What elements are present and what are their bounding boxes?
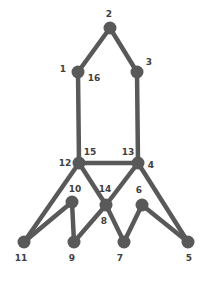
graph-node-label-14: 14 [99, 184, 112, 194]
graph-node-5[interactable] [182, 236, 195, 249]
graph-node-14[interactable] [100, 199, 113, 212]
graph-node-6[interactable] [136, 199, 149, 212]
graph-node-2[interactable] [104, 22, 117, 35]
graph-node-7[interactable] [118, 236, 131, 249]
graph-node-label-6: 6 [136, 185, 142, 195]
graph-edge-n6-n5 [142, 205, 188, 242]
graph-node-label-7: 7 [117, 253, 123, 263]
graph-edge-label-13: 13 [122, 147, 135, 157]
graph-diagram-canvas: 1234567910111214 1615138 [0, 0, 204, 283]
graph-node-1[interactable] [72, 66, 85, 79]
graph-node-label-10: 10 [69, 184, 82, 194]
graph-edge-label-15: 15 [84, 147, 97, 157]
graph-node-9[interactable] [68, 236, 81, 249]
graph-node-3[interactable] [131, 66, 144, 79]
graph-svg: 1234567910111214 1615138 [0, 0, 204, 283]
graph-node-label-4: 4 [148, 160, 154, 170]
graph-node-label-5: 5 [186, 253, 192, 263]
graph-node-11[interactable] [18, 236, 31, 249]
graph-node-label-1: 1 [60, 64, 66, 74]
graph-node-10[interactable] [66, 196, 79, 209]
graph-node-4[interactable] [132, 157, 145, 170]
graph-node-label-11: 11 [15, 253, 28, 263]
graph-edge-n1-n2 [78, 28, 110, 72]
graph-node-label-9: 9 [69, 253, 75, 263]
graph-edge-n1-n12 [78, 72, 79, 163]
graph-edge-n2-n3 [110, 28, 137, 72]
graph-node-label-3: 3 [146, 57, 152, 67]
graph-node-12[interactable] [73, 157, 86, 170]
graph-node-label-12: 12 [59, 158, 72, 168]
graph-node-label-2: 2 [106, 9, 112, 19]
graph-edge-label-8: 8 [101, 216, 107, 226]
graph-edge-n3-n4 [137, 72, 138, 163]
graph-edge-label-16: 16 [88, 73, 101, 83]
